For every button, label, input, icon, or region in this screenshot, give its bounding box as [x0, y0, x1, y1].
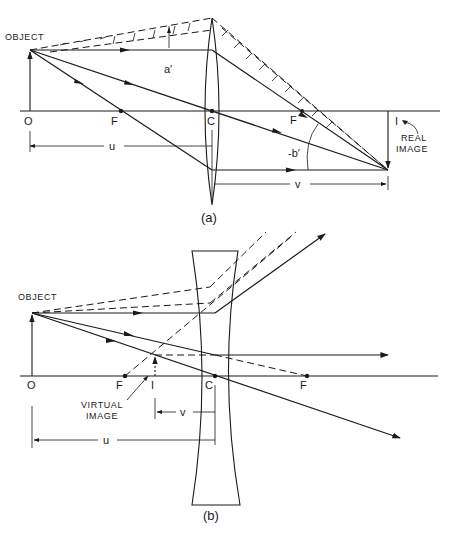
center-point-b: [213, 374, 217, 378]
caption-b: (b): [203, 508, 219, 523]
point-F-left-b: F: [116, 379, 123, 391]
dimension-u-b: u: [32, 406, 215, 448]
arrowhead: [167, 27, 171, 33]
svg-text:v: v: [295, 178, 301, 190]
arrowhead: [74, 79, 84, 84]
point-F-left-a: F: [111, 115, 118, 127]
virtual-image-label-2: IMAGE: [86, 411, 118, 421]
point-I-b: I: [151, 379, 154, 391]
angle-b-label: -b′: [288, 147, 300, 159]
ray-through-focus-a: [212, 50, 388, 170]
point-C-a: C: [207, 115, 215, 127]
ray-center-a: [30, 50, 388, 170]
arrowhead: [124, 331, 134, 336]
point-I-a: I: [395, 115, 398, 127]
focal-point-right-a: [300, 109, 304, 113]
caption-a: (a): [201, 210, 217, 225]
ray-diverging-up-b: [215, 234, 325, 313]
dimension-v-a: v: [214, 176, 388, 190]
point-F-right-b: F: [300, 379, 307, 391]
arrowhead: [120, 48, 130, 53]
center-point-a: [210, 109, 214, 113]
point-O-b: O: [27, 379, 36, 391]
object-label-b: OBJECT: [18, 292, 57, 302]
object-label-a: OBJECT: [5, 32, 44, 42]
arrowhead: [286, 168, 296, 173]
dimension-v-b: v: [155, 398, 215, 419]
point-O-a: O: [24, 115, 33, 127]
arrowhead: [124, 80, 134, 85]
svg-text:v: v: [180, 406, 186, 418]
ray-toward-focus-b: [32, 313, 215, 355]
focal-point-right-b: [305, 374, 309, 378]
angle-b-arc: [307, 124, 318, 170]
diagram-a-converging-lens: a′ -b′ OBJECT O F C F I REAL IMAGE u: [5, 18, 440, 225]
real-image-label-1: REAL: [401, 133, 427, 143]
virtual-image-pointer: [127, 376, 148, 400]
svg-text:u: u: [109, 140, 115, 152]
point-F-right-a: F: [290, 114, 297, 126]
virtual-image-label-1: VIRTUAL: [81, 400, 123, 410]
focal-point-left-b: [123, 374, 128, 379]
dimension-u-a: u: [30, 131, 212, 152]
real-image-label-2: IMAGE: [396, 144, 428, 154]
optics-diagram: a′ -b′ OBJECT O F C F I REAL IMAGE u: [0, 0, 452, 540]
focal-point-left-a: [119, 109, 123, 113]
arrowhead: [272, 128, 282, 133]
diagram-b-diverging-lens: OBJECT O F I C F VIRTUAL IMAGE v u (b): [18, 232, 438, 523]
svg-text:u: u: [103, 434, 109, 446]
angle-a-label: a′: [164, 63, 172, 75]
arrowhead: [133, 311, 143, 316]
point-C-b: C: [205, 379, 213, 391]
concave-lens-icon: [192, 251, 240, 505]
